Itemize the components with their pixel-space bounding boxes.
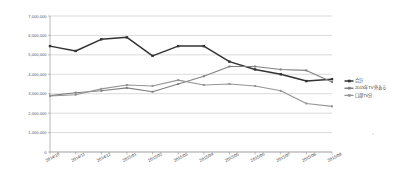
data-point [126, 84, 128, 86]
y-axis-label: 7,000,000 [28, 14, 47, 19]
data-point [177, 83, 179, 85]
x-axis-label: 2014/12 [96, 151, 112, 163]
x-axis-label: 2015/07 [275, 151, 291, 163]
data-point [49, 45, 51, 47]
data-point [177, 79, 179, 81]
data-point [203, 84, 205, 86]
x-axis-label: 2014/10 [45, 151, 61, 163]
data-point [254, 66, 256, 68]
legend-label-0: 合計 [355, 77, 363, 84]
data-point [100, 90, 102, 92]
data-point [305, 69, 307, 71]
data-point [152, 85, 154, 87]
x-axis-label: 2015/04 [198, 151, 214, 163]
data-point [305, 102, 307, 104]
legend-label-2: 口部TV分 [355, 92, 373, 99]
legend-label-1: 2015年TV外ある [355, 84, 386, 91]
data-point [280, 73, 282, 75]
legend-marker-1 [348, 87, 351, 90]
data-point [228, 83, 230, 85]
x-axis-label: 2015/06 [250, 151, 266, 163]
data-point [100, 38, 102, 40]
data-point [331, 81, 333, 83]
y-axis-label: 1,000,000 [28, 130, 47, 135]
data-point [126, 87, 128, 89]
x-axis-label: 2015/09 [327, 151, 343, 163]
x-axis-label: 2015/08 [301, 151, 317, 163]
data-point [152, 91, 154, 93]
data-point [331, 105, 333, 107]
artifact-dot [372, 133, 373, 134]
x-axis-label: 2015/02 [147, 151, 163, 163]
data-point [331, 78, 333, 80]
data-point [75, 92, 77, 94]
x-axis-label: 2015/01 [122, 151, 138, 163]
data-point [254, 85, 256, 87]
y-axis-label: 5,000,000 [28, 52, 47, 57]
y-axis-label: 6,000,000 [28, 33, 47, 38]
y-axis-label: 0 [44, 150, 47, 155]
series-line-2 [50, 80, 332, 106]
data-point [305, 80, 307, 82]
data-point [126, 36, 128, 38]
legend-marker-2 [348, 94, 351, 97]
data-point [75, 94, 77, 96]
data-point [203, 75, 205, 77]
x-axis-label: 2015/05 [224, 151, 240, 163]
chart-canvas: 7,000,0006,000,0005,000,0004,000,0003,00… [0, 0, 402, 178]
legend-marker-0 [348, 80, 351, 83]
data-point [49, 95, 51, 97]
data-point [280, 90, 282, 92]
y-axis-label: 2,000,000 [28, 111, 47, 116]
data-point [74, 50, 76, 52]
y-axis-label: 3,000,000 [28, 91, 47, 96]
data-point [228, 60, 230, 62]
data-point [151, 55, 153, 57]
data-point [203, 45, 205, 47]
data-point [254, 68, 256, 70]
data-point [177, 45, 179, 47]
x-axis-label: 2014/11 [70, 151, 86, 163]
x-axis-label: 2015/03 [173, 151, 189, 163]
data-point [100, 88, 102, 90]
data-point [280, 68, 282, 70]
y-axis-label: 4,000,000 [28, 72, 47, 77]
line-chart: 7,000,0006,000,0005,000,0004,000,0003,00… [0, 0, 402, 178]
data-point [228, 66, 230, 68]
